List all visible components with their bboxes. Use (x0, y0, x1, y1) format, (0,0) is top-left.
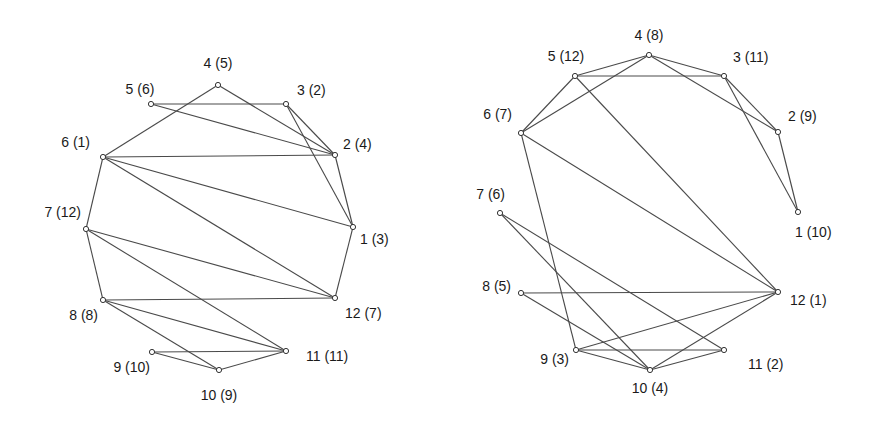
node-label: 9 (3) (540, 351, 569, 367)
graph-diagram-canvas: 1 (3)2 (4)3 (2)4 (5)5 (6)6 (1)7 (12)8 (8… (0, 0, 882, 424)
node-11 (283, 348, 288, 353)
edge-6-1 (103, 157, 353, 227)
edge-7-8 (86, 229, 103, 300)
node-6 (518, 130, 523, 135)
node-7 (497, 210, 502, 215)
node-7 (83, 226, 88, 231)
node-10 (647, 367, 652, 372)
edge-1-12 (335, 227, 353, 298)
edge-5-4 (575, 55, 649, 76)
edge-6-12 (521, 133, 778, 292)
left-graph: 1 (3)2 (4)3 (2)4 (5)5 (6)6 (1)7 (12)8 (8… (44, 55, 388, 403)
node-4 (646, 52, 651, 57)
node-label: 5 (12) (548, 48, 585, 64)
node-2 (775, 129, 780, 134)
node-5 (572, 73, 577, 78)
edge-7-11 (86, 229, 286, 351)
edge-8-12 (521, 292, 778, 293)
node-label: 9 (10) (113, 359, 150, 375)
edge-8-12 (103, 298, 335, 300)
node-label: 4 (5) (204, 55, 233, 71)
node-label: 12 (7) (345, 305, 382, 321)
node-label: 2 (9) (788, 108, 817, 124)
edge-4-6 (521, 55, 649, 133)
edge-2-1 (778, 132, 798, 212)
node-label: 6 (7) (483, 106, 512, 122)
node-5 (148, 101, 153, 106)
node-8 (100, 297, 105, 302)
edge-10-11 (650, 350, 724, 370)
node-6 (100, 154, 105, 159)
node-1 (350, 224, 355, 229)
edge-3-1 (286, 104, 353, 227)
edge-3-1 (724, 76, 798, 212)
node-label: 10 (9) (201, 387, 238, 403)
node-label: 3 (11) (733, 49, 769, 65)
right-graph: 1 (10)2 (9)3 (11)4 (8)5 (12)6 (7)7 (6)8 … (476, 27, 831, 396)
edge-4-6 (103, 85, 218, 157)
node-10 (216, 367, 221, 372)
edge-9-10 (152, 352, 219, 370)
node-12 (775, 289, 780, 294)
node-label: 8 (5) (482, 278, 511, 294)
node-label: 7 (12) (44, 204, 81, 220)
node-label: 3 (2) (297, 82, 326, 98)
node-3 (283, 101, 288, 106)
edge-4-2 (649, 55, 778, 132)
edge-7-12 (86, 229, 335, 298)
right-graph-labels: 1 (10)2 (9)3 (11)4 (8)5 (12)6 (7)7 (6)8 … (476, 27, 831, 396)
right-graph-edges (500, 55, 798, 370)
node-label: 8 (8) (69, 307, 98, 323)
node-9 (573, 347, 578, 352)
node-label: 5 (6) (126, 81, 155, 97)
edge-5-2 (151, 104, 335, 155)
left-graph-labels: 1 (3)2 (4)3 (2)4 (5)5 (6)6 (1)7 (12)8 (8… (44, 55, 388, 403)
node-8 (518, 290, 523, 295)
node-label: 4 (8) (635, 27, 664, 43)
node-11 (721, 347, 726, 352)
node-9 (149, 349, 154, 354)
edge-6-7 (86, 157, 103, 229)
edge-5-12 (575, 76, 778, 292)
node-label: 6 (1) (61, 134, 90, 150)
left-graph-edges (86, 85, 353, 370)
edge-2-1 (335, 155, 353, 227)
node-1 (795, 209, 800, 214)
node-label: 10 (4) (632, 380, 669, 396)
edge-6-2 (103, 155, 335, 157)
edge-9-12 (576, 292, 778, 350)
edge-6-9 (521, 133, 576, 350)
node-label: 2 (4) (343, 136, 372, 152)
node-label: 11 (11) (306, 348, 348, 364)
node-3 (721, 73, 726, 78)
node-label: 7 (6) (476, 186, 505, 202)
node-label: 11 (2) (748, 356, 784, 372)
node-label: 1 (10) (795, 224, 832, 240)
node-label: 1 (3) (360, 231, 389, 247)
edge-10-11 (219, 351, 286, 370)
edge-9-10 (576, 350, 650, 370)
edge-4-3 (649, 55, 724, 76)
node-label: 12 (1) (790, 292, 827, 308)
node-4 (215, 82, 220, 87)
edge-8-11 (103, 300, 286, 351)
edge-9-11 (152, 351, 286, 352)
node-2 (332, 152, 337, 157)
node-12 (332, 295, 337, 300)
edge-6-12 (103, 157, 335, 298)
